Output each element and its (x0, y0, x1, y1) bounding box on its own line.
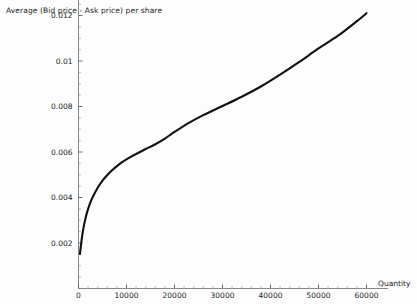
y-tick-label: 0.012 (51, 11, 73, 20)
x-axis: 0100002000030000400005000060000 (76, 285, 388, 301)
chart-canvas: Average (Bid price - Ask price) per shar… (0, 0, 417, 304)
x-tick-label: 0 (76, 291, 81, 300)
x-tick-label: 60000 (355, 291, 379, 300)
x-tick-label: 10000 (115, 291, 139, 300)
y-tick-label: 0.01 (56, 57, 73, 66)
data-series-line-0 (80, 13, 367, 254)
x-tick-label: 40000 (259, 291, 283, 300)
x-tick-label: 30000 (211, 291, 235, 300)
x-tick-label: 20000 (163, 291, 187, 300)
plot-area: 0.0020.0040.0060.0080.010.012 0100002000… (0, 0, 417, 304)
x-axis-label: Quantity (378, 279, 411, 288)
y-axis: 0.0020.0040.0060.0080.010.012 (51, 0, 82, 289)
y-tick-label: 0.002 (51, 239, 73, 248)
x-tick-label: 50000 (307, 291, 331, 300)
y-tick-label: 0.008 (51, 102, 73, 111)
data-series-group (80, 13, 367, 254)
y-tick-label: 0.006 (51, 148, 73, 157)
y-tick-label: 0.004 (51, 193, 73, 202)
